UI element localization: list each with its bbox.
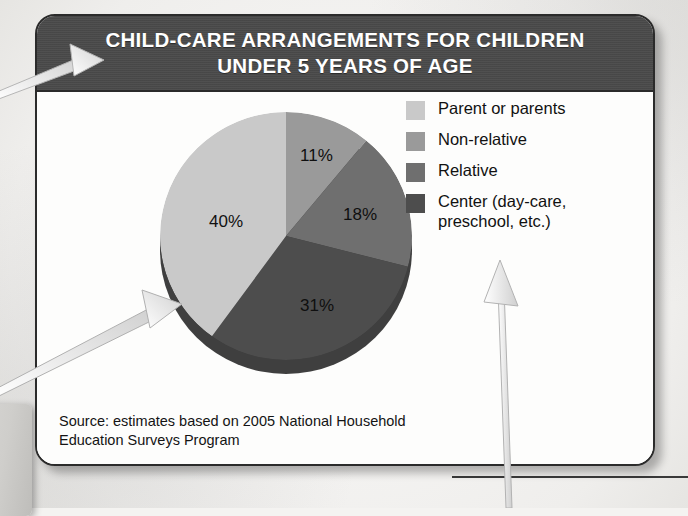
legend-label: Parent or parents <box>438 98 566 118</box>
legend-item-relative: Relative <box>406 160 646 182</box>
pie-label-non-relative: 11% <box>300 146 333 166</box>
source-line-2: Education Surveys Program <box>59 431 489 450</box>
legend-swatch-icon <box>406 101 425 120</box>
horizontal-rule-bottom <box>452 476 688 478</box>
chart-body: 40% 11% 18% 31% Parent or parents Non-re… <box>37 92 653 466</box>
legend-label: Center (day-care, preschool, etc.) <box>438 191 646 231</box>
chart-source-note: Source: estimates based on 2005 National… <box>59 412 489 450</box>
chart-card: CHILD-CARE ARRANGEMENTS FOR CHILDREN UND… <box>35 14 655 466</box>
chart-title-line-2: UNDER 5 YEARS OF AGE <box>217 53 472 79</box>
pie-chart: 40% 11% 18% 31% <box>157 100 429 388</box>
source-line-1: Source: estimates based on 2005 National… <box>59 412 489 431</box>
pie-face <box>160 112 412 360</box>
legend-label: Relative <box>438 160 498 180</box>
legend-swatch-icon <box>406 194 425 213</box>
chart-title-bar: CHILD-CARE ARRANGEMENTS FOR CHILDREN UND… <box>37 16 653 92</box>
legend-swatch-icon <box>406 163 425 182</box>
pie-label-relative: 18% <box>343 205 377 225</box>
legend-item-parent-or-parents: Parent or parents <box>406 98 646 120</box>
legend-item-non-relative: Non-relative <box>406 129 646 151</box>
legend-item-center: Center (day-care, preschool, etc.) <box>406 191 646 231</box>
legend-swatch-icon <box>406 132 425 151</box>
pie-slices-svg <box>160 112 412 360</box>
adjacent-gray-panel <box>0 404 32 516</box>
pie-label-parent: 40% <box>209 212 243 232</box>
pie-label-center: 31% <box>300 296 334 316</box>
chart-title-line-1: CHILD-CARE ARRANGEMENTS FOR CHILDREN <box>105 27 584 53</box>
chart-legend: Parent or parents Non-relative Relative … <box>406 98 646 240</box>
legend-label: Non-relative <box>438 129 527 149</box>
